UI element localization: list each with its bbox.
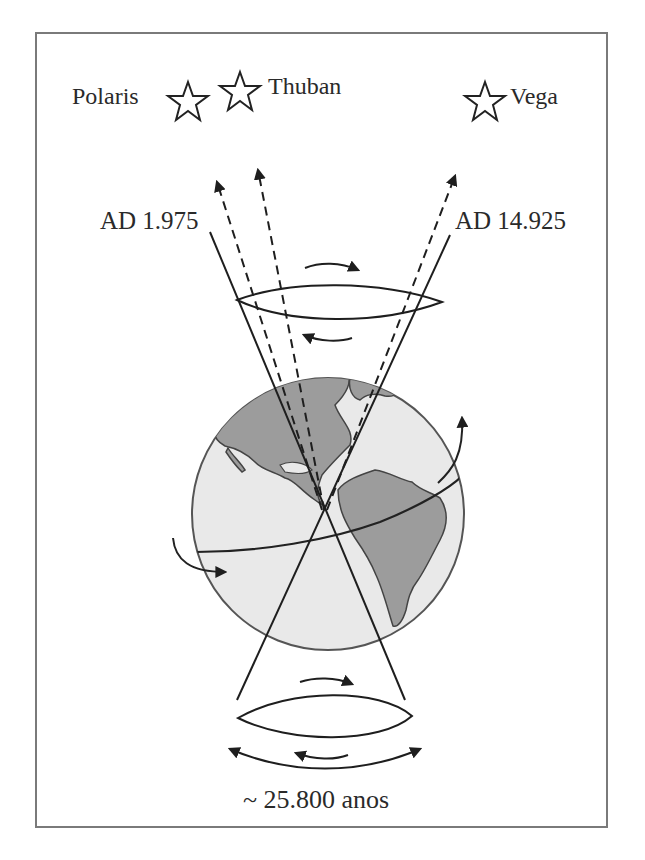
lower-arrow-forward [300, 678, 352, 684]
precession-period-label: ~ 25.800 anos [243, 787, 389, 813]
upper-precession-circle [237, 285, 442, 319]
upper-arrow-forward [305, 264, 358, 270]
upper-arrow-back [304, 335, 352, 341]
earth-globe [192, 372, 464, 650]
lower-precession-circle [238, 695, 412, 737]
star-outline-icon [465, 82, 505, 120]
axis-label-ad-14925: AD 14.925 [455, 208, 566, 233]
star-outline-icon [168, 82, 208, 120]
star-label-polaris: Polaris [72, 84, 139, 108]
axis-label-ad-1975: AD 1.975 [100, 208, 199, 233]
precession-diagram [0, 0, 645, 860]
star-label-thuban: Thuban [268, 74, 341, 98]
star-outline-icon [220, 72, 260, 110]
lower-arrow-back [296, 753, 348, 759]
star-label-vega: Vega [510, 84, 558, 108]
